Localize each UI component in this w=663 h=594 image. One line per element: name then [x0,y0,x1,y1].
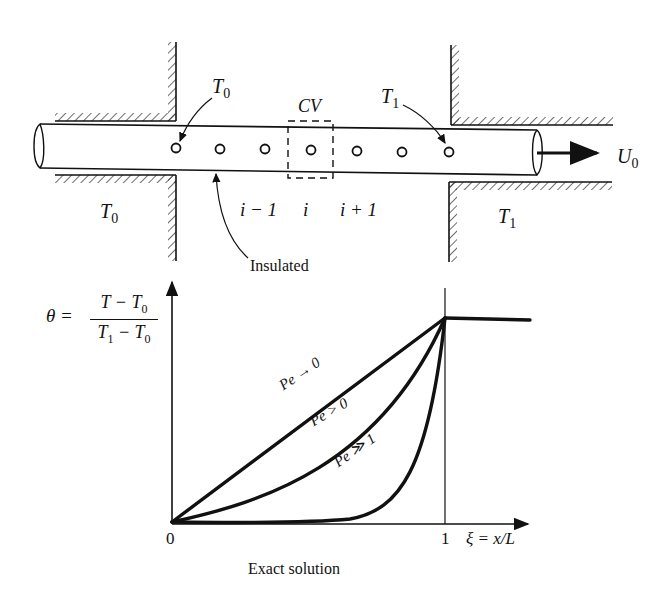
right-reservoir-label: T1 [498,206,516,231]
cropped-top-text [0,0,663,4]
t0-sensor-label: T0 [212,76,230,101]
theta-numerator: T − T0 [90,292,158,320]
node-dot [216,145,225,154]
curve-pe-to-0 [172,318,445,522]
t1-sensor-label: T1 [381,86,399,111]
x-axis-label: ξ = x/L [466,530,515,547]
insulated-label: Insulated [250,258,309,274]
curve-outflow [445,318,530,320]
left-reservoir-label: T0 [100,201,118,226]
node-label-i-plus-1: i + 1 [340,200,377,219]
left-reservoir-wall [55,42,176,261]
x-tick-0: 0 [166,530,175,547]
node-dot [172,144,181,153]
theta-fraction: T − T0 T1 − T0 [90,292,158,346]
node-label-i-minus-1: i − 1 [240,200,277,219]
node-dot [307,146,316,155]
t1-leader-arrow-icon [403,105,445,143]
chart-caption: Exact solution [248,561,340,577]
x-tick-1: 1 [441,530,450,547]
u0-label: U0 [617,146,638,171]
node-dot [398,148,407,157]
node-dot [445,148,454,157]
node-dot [353,147,362,156]
t0-leader-arrow-icon [180,98,212,141]
theta-denominator: T1 − T0 [90,320,158,347]
node-label-i: i [303,200,308,219]
chart-curves [172,318,530,522]
pipe-break-left [34,124,44,168]
cv-label: CV [298,97,321,115]
grid-nodes [172,144,454,157]
theta-lhs: θ = [46,306,73,325]
node-dot [261,145,270,154]
